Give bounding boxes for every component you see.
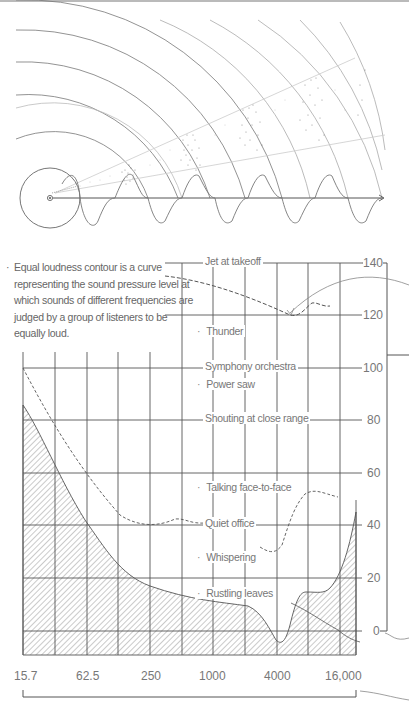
- sound-wave-illustration: [16, 0, 385, 198]
- source-label-jet: Jet at takeoff: [203, 255, 263, 267]
- bullet: ·: [6, 259, 9, 276]
- x-tick-62-5: 62.5: [76, 669, 99, 683]
- equal-loudness-note: · Equal loudness contour is a curve repr…: [14, 259, 199, 342]
- frequency-range-bracket: [23, 690, 356, 697]
- low-contour-dashed: [260, 491, 338, 551]
- y-tick-140: 140: [363, 256, 383, 270]
- source-label-quiet-office: Quiet office: [203, 517, 256, 529]
- source-label-shouting: Shouting at close range: [203, 412, 310, 424]
- y-tick-40: 40: [367, 518, 380, 532]
- x-tick-250: 250: [141, 669, 161, 683]
- x-tick-15-7: 15.7: [14, 669, 37, 683]
- x-tick-4000: 4000: [264, 669, 291, 683]
- y-tick-0: 0: [373, 624, 380, 638]
- y-tick-100: 100: [363, 361, 383, 375]
- threshold-hatched-area: [23, 405, 356, 655]
- source-label-power-saw: ·Power saw: [195, 378, 257, 390]
- y-tick-120: 120: [363, 308, 383, 322]
- x-tick-1000: 1000: [199, 669, 226, 683]
- y-tick-60: 60: [367, 466, 380, 480]
- source-label-symphony: Symphony orchestra: [203, 360, 298, 372]
- source-label-talking: ·Talking face-to-face: [195, 481, 293, 493]
- y-tick-80: 80: [367, 413, 380, 427]
- sine-wave: [62, 174, 382, 225]
- source-label-rustling: ·Rustling leaves: [195, 587, 275, 599]
- source-label-thunder: ·Thunder: [195, 325, 245, 337]
- y-tick-20: 20: [367, 571, 380, 585]
- source-label-whispering: ·Whispering: [195, 551, 258, 563]
- x-tick-16000: 16,000: [325, 669, 362, 683]
- note-text: Equal loudness contour is a curve repres…: [14, 261, 193, 339]
- compression-dots: [80, 69, 366, 186]
